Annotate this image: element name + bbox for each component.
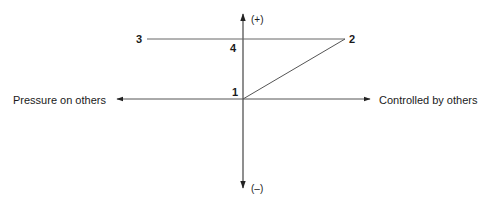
controlled-by-others-label: Controlled by others: [379, 94, 477, 106]
pressure-on-others-label: Pressure on others: [13, 94, 106, 106]
line-1-to-2: [243, 39, 345, 99]
point-4-label: 4: [230, 42, 236, 54]
point-3-label: 3: [136, 33, 142, 45]
negative-sign-label: (–): [251, 183, 263, 195]
positive-sign-label: (+): [251, 14, 264, 26]
point-1-label: 1: [232, 86, 238, 98]
point-2-label: 2: [349, 33, 355, 45]
